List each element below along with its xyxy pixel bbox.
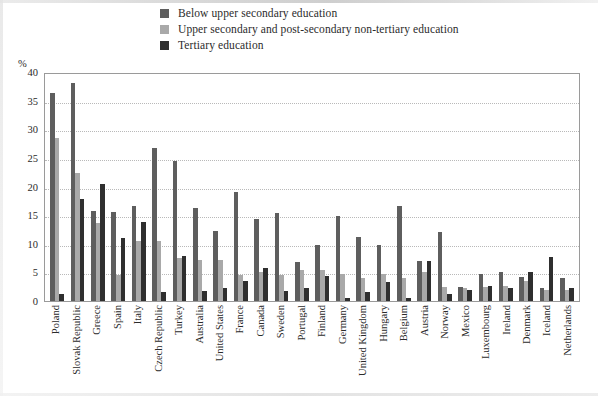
bar-group	[536, 74, 556, 301]
bar	[549, 257, 554, 301]
x-label-cell: Iceland	[537, 303, 557, 395]
bar-group	[516, 74, 536, 301]
bar-group	[475, 74, 495, 301]
y-tick-label: 30	[28, 125, 39, 135]
y-tick-label: 20	[28, 183, 39, 193]
legend-label-series0: Below upper secondary education	[178, 7, 337, 20]
x-label-cell: Mexico	[455, 303, 475, 395]
bar	[100, 184, 105, 301]
x-axis-label: Norway	[440, 305, 450, 339]
legend-swatch-icon-series2	[160, 41, 169, 50]
bar	[121, 238, 126, 301]
chart-page: Below upper secondary education Upper se…	[0, 0, 598, 396]
y-tick-label: 25	[28, 154, 39, 164]
bar-groups	[45, 74, 579, 301]
x-axis-label: Ireland	[502, 305, 512, 335]
x-axis-label: Canada	[256, 305, 266, 337]
bar	[406, 298, 411, 301]
bar	[427, 261, 432, 301]
legend-label-series1: Upper secondary and post-secondary non-t…	[178, 23, 459, 36]
bar-group	[373, 74, 393, 301]
bar-group	[496, 74, 516, 301]
x-axis-label: Slovak Republic	[72, 305, 82, 375]
legend-swatch-icon-series1	[160, 25, 169, 34]
bar-group	[129, 74, 149, 301]
y-tick-label: 10	[28, 240, 39, 250]
x-axis-label: Netherlands	[563, 305, 573, 356]
x-axis-label: Luxembourg	[481, 305, 491, 359]
x-label-cell: Canada	[251, 303, 271, 395]
x-axis-category-labels: PolandSlovak RepublicGreeceSpainItalyCze…	[44, 303, 580, 395]
bar-group	[455, 74, 475, 301]
bar-group	[557, 74, 577, 301]
bar-group	[271, 74, 291, 301]
x-label-cell: Austria	[414, 303, 434, 395]
x-label-cell: Poland	[46, 303, 66, 395]
bar	[386, 282, 391, 301]
legend-swatch-icon-series0	[160, 9, 169, 18]
y-tick-label: 0	[33, 297, 38, 307]
bar	[340, 274, 345, 301]
x-label-cell: Netherlands	[558, 303, 578, 395]
x-axis-label: Iceland	[542, 305, 552, 336]
y-tick-label: 40	[28, 68, 39, 78]
x-axis-label: United Kingdom	[358, 305, 368, 376]
bar	[202, 291, 207, 301]
y-axis-unit-label: %	[18, 58, 27, 69]
x-axis-label: Mexico	[461, 305, 471, 337]
x-label-cell: Turkey	[169, 303, 189, 395]
x-axis-label: Poland	[51, 305, 61, 334]
bar	[488, 286, 493, 301]
x-axis-label: Italy	[133, 305, 143, 324]
x-label-cell: Belgium	[394, 303, 414, 395]
x-axis-label: Belgium	[399, 305, 409, 341]
x-axis-label: Denmark	[522, 305, 532, 344]
x-label-cell: Germany	[333, 303, 353, 395]
bar	[55, 138, 60, 301]
x-label-cell: Italy	[128, 303, 148, 395]
bar	[223, 288, 228, 301]
bar	[141, 222, 146, 301]
x-label-cell: Ireland	[496, 303, 516, 395]
x-axis-label: United States	[215, 305, 225, 361]
bar	[447, 294, 452, 301]
bar	[569, 288, 574, 301]
x-label-cell: Norway	[435, 303, 455, 395]
x-axis-label: Czech Republic	[154, 305, 164, 372]
plot-area	[44, 73, 580, 302]
x-label-cell: United States	[210, 303, 230, 395]
bar	[325, 276, 330, 301]
bar	[467, 290, 472, 301]
bar	[365, 292, 370, 301]
x-label-cell: Slovak Republic	[66, 303, 86, 395]
x-label-cell: Spain	[107, 303, 127, 395]
bar	[59, 294, 64, 301]
x-label-cell: United Kingdom	[353, 303, 373, 395]
x-axis-label: Portugal	[297, 305, 307, 341]
x-label-cell: Portugal	[292, 303, 312, 395]
bar-group	[312, 74, 332, 301]
y-axis-tick-labels: 4035302520151050	[0, 73, 44, 302]
x-label-cell: Luxembourg	[476, 303, 496, 395]
x-axis-label: Austria	[420, 305, 430, 336]
x-axis-label: Spain	[113, 305, 123, 329]
bar	[508, 288, 513, 301]
bar-group	[332, 74, 352, 301]
bar-group	[210, 74, 230, 301]
x-label-cell: Australia	[189, 303, 209, 395]
chart-legend: Below upper secondary education Upper se…	[160, 6, 560, 54]
bar-group	[394, 74, 414, 301]
x-axis-label: Greece	[92, 305, 102, 335]
x-axis-label: Sweden	[276, 305, 286, 338]
x-label-cell: Greece	[87, 303, 107, 395]
bar-group	[67, 74, 87, 301]
bar-group	[108, 74, 128, 301]
bar	[243, 281, 248, 301]
x-label-cell: Finland	[312, 303, 332, 395]
x-axis-label: Turkey	[174, 305, 184, 335]
scan-edge-top	[0, 0, 598, 3]
legend-item-upper-secondary: Upper secondary and post-secondary non-t…	[160, 22, 560, 37]
x-axis-label: Australia	[195, 305, 205, 344]
bar	[80, 199, 85, 301]
bar-group	[251, 74, 271, 301]
